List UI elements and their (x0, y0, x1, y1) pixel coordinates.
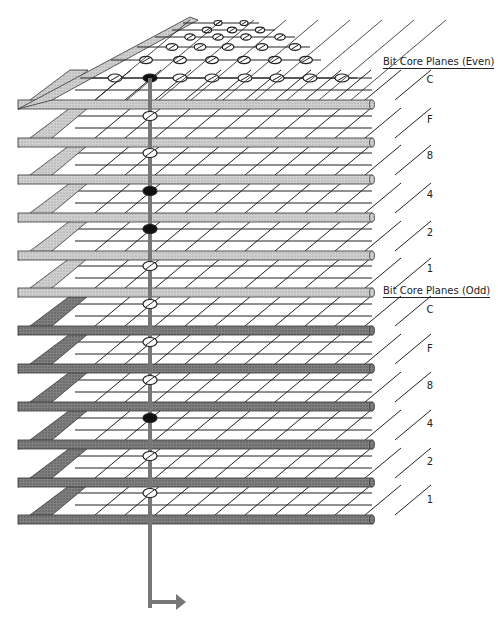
odd-planes-heading: Bit Core Planes (Odd) (383, 285, 490, 298)
odd-plane-label-8: 8 (370, 380, 490, 391)
core-plane-dark-4 (18, 410, 431, 449)
bit-core-2 (143, 225, 157, 234)
even-plane-label-4: 4 (370, 189, 490, 200)
odd-plane-label-2: 2 (370, 456, 490, 467)
even-plane-label-c: C (370, 74, 490, 85)
odd-plane-label-4: 4 (370, 418, 490, 429)
output-arrow-icon (176, 594, 186, 610)
bit-core-4 (143, 414, 157, 423)
odd-plane-label-1: 1 (370, 494, 490, 505)
core-plane-dark-8 (18, 372, 431, 411)
odd-plane-label-c: C (370, 304, 490, 315)
even-plane-label-8: 8 (370, 150, 490, 161)
even-planes-heading: Bit Core Planes (Even) (383, 56, 494, 69)
even-plane-label-2: 2 (370, 227, 490, 238)
odd-plane-label-f: F (370, 343, 490, 354)
core-plane-dark-2 (18, 448, 431, 487)
even-plane-label-1: 1 (370, 263, 490, 274)
core-plane-dark-C (18, 296, 431, 335)
bit-core-4 (143, 187, 157, 196)
even-plane-label-f: F (370, 114, 490, 125)
